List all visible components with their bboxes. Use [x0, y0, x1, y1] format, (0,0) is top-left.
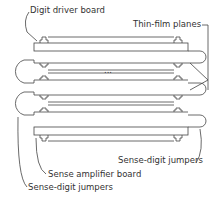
label-sense-digit-jumpers-right: Sense-digit jumpers — [118, 155, 203, 165]
ellipsis-mark: ... — [104, 65, 112, 75]
right-jumper-loop-1 — [188, 51, 206, 63]
label-thin-film-planes: Thin-film planes — [132, 19, 202, 29]
thin-film-plane-2: ... — [34, 60, 188, 83]
label-sense-amplifier-board: Sense amplifier board — [48, 169, 141, 179]
thin-film-plane-3 — [34, 92, 188, 115]
label-sense-digit-jumpers-left: Sense-digit jumpers — [28, 182, 113, 192]
leader-sense-amplifier-board — [36, 138, 46, 174]
leader-thin-film-planes — [190, 25, 208, 90]
left-jumper-loop-2 — [15, 92, 34, 115]
digit-driver-board — [34, 37, 188, 51]
thin-film-memory-stack-diagram: ... Digit driver board Thin-film planes … — [0, 0, 214, 202]
label-digit-driver-board: Digit driver board — [30, 5, 105, 15]
leader-sense-digit-jumpers-left — [18, 117, 27, 187]
sense-amplifier-board — [34, 127, 188, 141]
right-jumper-loop-3 — [188, 115, 206, 127]
left-jumper-loop-1 — [15, 60, 34, 83]
right-jumper-loop-2 — [188, 83, 206, 95]
leader-digit-driver-board — [25, 12, 37, 41]
